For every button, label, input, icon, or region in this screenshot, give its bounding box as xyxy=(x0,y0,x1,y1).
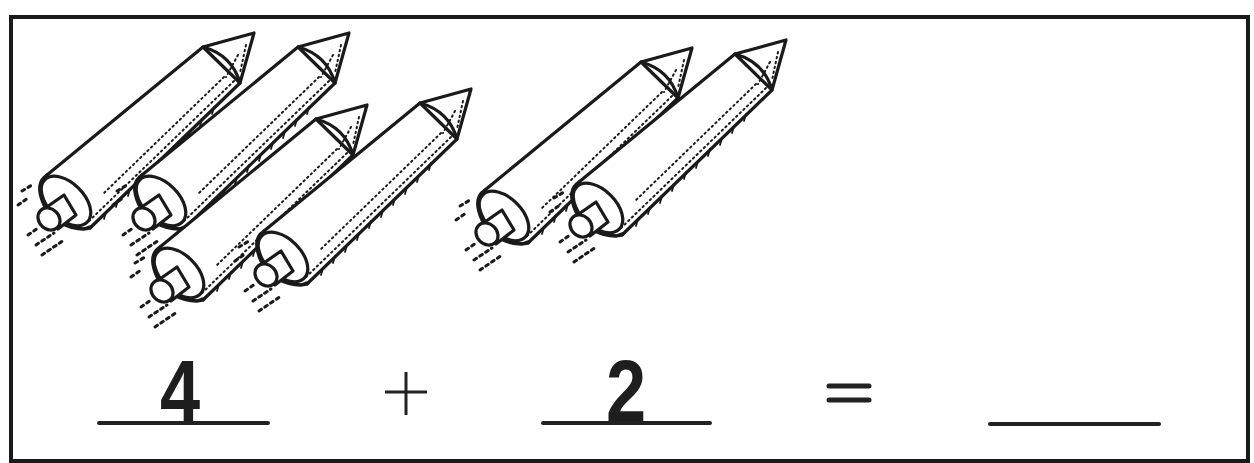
plus-sign xyxy=(385,372,427,415)
addend-2-blank xyxy=(541,421,712,425)
rocket-group-second xyxy=(456,40,786,270)
equals-sign xyxy=(829,386,869,400)
rocket-group-first xyxy=(18,33,471,327)
addend-1-blank xyxy=(97,421,270,425)
answer-blank[interactable] xyxy=(988,422,1161,426)
